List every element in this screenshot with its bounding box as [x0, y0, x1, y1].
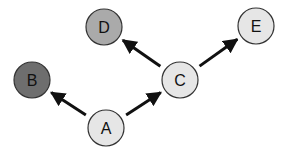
edge-a-to-b: [51, 93, 86, 115]
nodes-layer: ABCDE: [14, 8, 274, 146]
node-b: B: [14, 62, 50, 98]
node-label: E: [251, 18, 262, 35]
node-a: A: [88, 110, 124, 146]
node-e: E: [238, 8, 274, 44]
node-c: C: [162, 62, 198, 98]
edges-layer: [51, 39, 237, 115]
edge-a-to-c: [126, 93, 161, 115]
node-label: C: [174, 72, 186, 89]
node-label: D: [98, 19, 110, 36]
graph-canvas: ABCDE: [0, 0, 288, 156]
node-label: B: [27, 72, 38, 89]
node-label: A: [101, 120, 112, 137]
edge-c-to-e: [200, 39, 238, 66]
edge-c-to-d: [123, 40, 160, 66]
node-d: D: [86, 9, 122, 45]
